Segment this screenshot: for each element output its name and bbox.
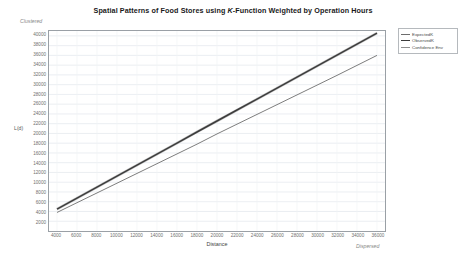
y-tick-label: 8000 bbox=[2, 190, 46, 195]
y-tick-label: 36000 bbox=[2, 52, 46, 57]
y-tick-label: 34000 bbox=[2, 62, 46, 67]
y-tick-label: 4000 bbox=[2, 210, 46, 215]
x-tick-label: 36000 bbox=[366, 233, 390, 238]
y-tick-label: 28000 bbox=[2, 92, 46, 97]
legend-item-label: Confidence Env bbox=[412, 45, 443, 50]
gridlines bbox=[49, 31, 385, 231]
legend-item-confidence-env[interactable]: Confidence Env bbox=[401, 44, 455, 50]
y-tick-label: 40000 bbox=[2, 32, 46, 37]
legend-swatch-icon bbox=[401, 47, 410, 48]
y-tick-label: 2000 bbox=[2, 220, 46, 225]
chart-title: Spatial Patterns of Food Stores using K-… bbox=[0, 6, 466, 15]
y-tick-label: 26000 bbox=[2, 101, 46, 106]
legend-swatch-icon bbox=[401, 34, 410, 35]
plot-svg bbox=[49, 31, 385, 231]
y-tick-label: 16000 bbox=[2, 151, 46, 156]
legend-swatch-icon bbox=[401, 40, 410, 41]
y-tick-label: 14000 bbox=[2, 161, 46, 166]
chart-container: Spatial Patterns of Food Stores using K-… bbox=[0, 0, 466, 265]
y-tick-label: 10000 bbox=[2, 180, 46, 185]
y-tick-label: 30000 bbox=[2, 82, 46, 87]
y-tick-label: 38000 bbox=[2, 42, 46, 47]
y-tick-label: 6000 bbox=[2, 200, 46, 205]
y-tick-label: 12000 bbox=[2, 170, 46, 175]
y-tick-label: 32000 bbox=[2, 72, 46, 77]
legend-item-expectedk[interactable]: ExpectedK bbox=[401, 31, 455, 37]
x-axis-tick-labels: 4000600080001000012000140001600018000200… bbox=[48, 233, 386, 243]
y-tick-label: 20000 bbox=[2, 131, 46, 136]
legend-item-observedk[interactable]: ObservedK bbox=[401, 38, 455, 44]
chart-title-post: -Function Weighted by Operation Hours bbox=[233, 6, 373, 15]
annotation-clustered: Clustered bbox=[20, 18, 42, 24]
y-tick-label: 18000 bbox=[2, 141, 46, 146]
plot-area bbox=[48, 30, 386, 232]
y-tick-label: 24000 bbox=[2, 111, 46, 116]
legend: ExpectedKObservedKConfidence Env bbox=[398, 28, 458, 54]
chart-title-pre: Spatial Patterns of Food Stores using bbox=[93, 6, 227, 15]
legend-item-label: ObservedK bbox=[412, 38, 434, 43]
y-tick-label: 22000 bbox=[2, 121, 46, 126]
y-axis-tick-labels: 2000400060008000100001200014000160001800… bbox=[0, 30, 46, 232]
legend-item-label: ExpectedK bbox=[412, 32, 433, 37]
